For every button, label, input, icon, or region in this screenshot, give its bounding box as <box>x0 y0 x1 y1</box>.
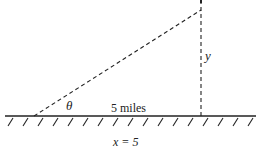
ground-hatching <box>8 118 253 126</box>
angle-theta-label: θ <box>66 98 73 113</box>
distance-label: 5 miles <box>111 101 146 115</box>
height-y-label: y <box>203 48 211 63</box>
rocket-marker <box>200 0 202 3</box>
equation-label: x = 5 <box>112 135 138 149</box>
diagram-canvas: θ 5 miles y x = 5 <box>0 0 258 161</box>
